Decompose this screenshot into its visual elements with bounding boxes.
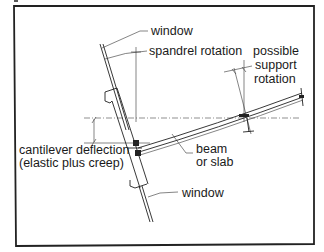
- label-support-rotation-2: support: [255, 58, 297, 72]
- label-support-rotation-3: rotation: [254, 72, 296, 86]
- label-cantilever-deflection-1: cantilever deflection: [19, 143, 130, 157]
- beam-end-tick: [299, 88, 304, 106]
- label-window-top: window: [150, 24, 194, 38]
- spandrel-connection: [128, 140, 142, 156]
- leader-window-bottom: [148, 192, 178, 197]
- diagram-canvas: window spandrel rotation possible suppor…: [0, 0, 324, 252]
- label-window-bottom: window: [181, 186, 225, 200]
- label-beam: beam: [196, 142, 227, 156]
- upper-window: [100, 44, 129, 130]
- lower-window: [139, 186, 153, 222]
- leader-window-top: [102, 31, 148, 48]
- figure-frame: [14, 6, 314, 246]
- cantilever-deflection-dimension: [84, 117, 150, 145]
- spandrel-panel: [105, 88, 148, 188]
- label-or-slab: or slab: [196, 155, 234, 169]
- label-support-rotation-1: possible: [253, 44, 299, 58]
- label-cantilever-deflection-2: (elastic plus creep): [19, 156, 124, 170]
- label-spandrel-rotation: spandrel rotation: [149, 44, 242, 58]
